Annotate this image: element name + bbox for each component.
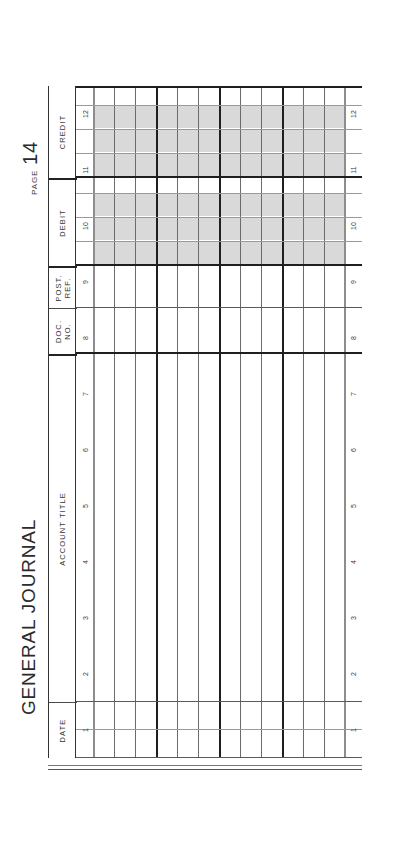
row-number: 11 xyxy=(344,142,362,198)
journal-sheet: GENERAL JOURNAL PAGE 14 DATE ACCOUNT TIT… xyxy=(0,0,401,843)
col-rule-right-edge xyxy=(76,86,362,88)
row-number: 5 xyxy=(344,478,362,534)
row-number: 8 xyxy=(76,310,94,366)
page-number: 14 xyxy=(19,141,42,165)
row-rule-7 xyxy=(240,86,241,758)
column-header-date: DATE xyxy=(49,702,77,758)
row-number: 12 xyxy=(344,86,362,142)
col-rule-post-right xyxy=(76,264,362,266)
row-number: 2 xyxy=(76,646,94,702)
journal-body: 123456789101112 123456789101112 xyxy=(76,86,362,758)
column-header-account-title: ACCOUNT TITLE xyxy=(49,354,77,702)
row-rule-11 xyxy=(324,86,325,758)
row-rule-10 xyxy=(303,86,304,758)
col-rule-account-right xyxy=(76,352,362,354)
row-number: 9 xyxy=(344,254,362,310)
row-number: 6 xyxy=(76,422,94,478)
row-rule-3 xyxy=(156,86,158,758)
col-rule-date-right xyxy=(76,701,362,702)
col-rule-left-edge xyxy=(76,757,362,758)
column-header-post-ref: POST. REF. xyxy=(49,266,77,308)
row-rule-6 xyxy=(219,86,221,758)
row-number: 7 xyxy=(344,366,362,422)
row-number: 12 xyxy=(76,86,94,142)
row-number: 1 xyxy=(76,702,94,758)
row-number: 4 xyxy=(344,534,362,590)
row-number: 3 xyxy=(76,590,94,646)
row-rule-4 xyxy=(177,86,178,758)
row-rule-2 xyxy=(135,86,136,758)
col-rule-debit-right xyxy=(76,176,362,178)
row-number: 8 xyxy=(344,310,362,366)
row-number: 6 xyxy=(344,422,362,478)
row-rule-9 xyxy=(282,86,284,758)
row-number-strip-top: 123456789101112 xyxy=(76,86,94,758)
page-canvas: GENERAL JOURNAL PAGE 14 DATE ACCOUNT TIT… xyxy=(0,0,401,843)
page-title: GENERAL JOURNAL xyxy=(18,519,40,715)
row-number: 7 xyxy=(76,366,94,422)
row-number: 1 xyxy=(344,702,362,758)
row-rule-1 xyxy=(114,86,115,758)
row-number-strip-bottom: 123456789101112 xyxy=(344,86,362,758)
col-rule-credit-2 xyxy=(76,129,362,130)
column-header-doc-no: DOC. NO. xyxy=(49,308,77,354)
col-rule-debit-3 xyxy=(76,193,362,194)
row-number: 2 xyxy=(344,646,362,702)
col-rule-credit-3 xyxy=(76,105,362,106)
outer-rule-inner xyxy=(48,765,362,766)
row-number: 9 xyxy=(76,254,94,310)
outer-rule-outer xyxy=(48,769,362,770)
page-label: PAGE xyxy=(30,170,39,195)
column-header-credit: CREDIT xyxy=(49,86,77,178)
column-header-debit: DEBIT xyxy=(49,178,77,266)
col-rule-debit-2 xyxy=(76,217,362,218)
col-rule-date-split xyxy=(76,729,362,730)
col-rule-doc-right xyxy=(76,307,362,308)
row-number: 10 xyxy=(76,198,94,254)
row-number: 5 xyxy=(76,478,94,534)
col-rule-debit-1 xyxy=(76,241,362,242)
row-number: 3 xyxy=(344,590,362,646)
row-number: 4 xyxy=(76,534,94,590)
journal-table: DATE ACCOUNT TITLE DOC. NO. POST. REF. D… xyxy=(48,86,362,758)
row-rule-8 xyxy=(261,86,262,758)
col-rule-credit-1 xyxy=(76,153,362,154)
row-rule-5 xyxy=(198,86,199,758)
row-number: 11 xyxy=(76,142,94,198)
column-header-band: DATE ACCOUNT TITLE DOC. NO. POST. REF. D… xyxy=(48,86,76,758)
row-number: 10 xyxy=(344,198,362,254)
